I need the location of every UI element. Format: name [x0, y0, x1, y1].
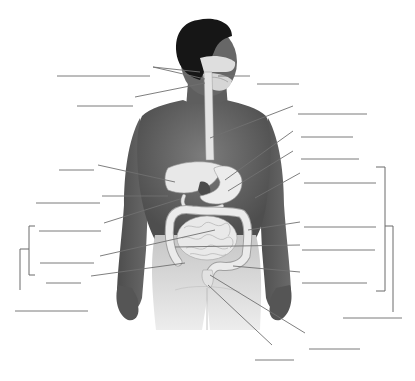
bracket-right-outer: [385, 226, 393, 312]
digestive-system-diagram: [0, 0, 415, 381]
esophagus: [204, 72, 214, 160]
bracket-left-outer: [20, 249, 29, 290]
bracket-left-inner: [29, 226, 35, 275]
bracket-right-inner: [376, 167, 385, 291]
human-figure: [116, 19, 291, 330]
